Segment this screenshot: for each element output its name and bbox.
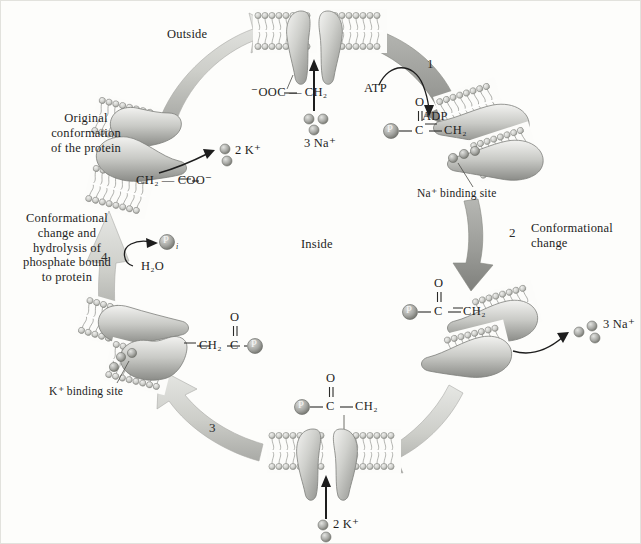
bonds-misc [192,93,297,181]
oxygen-glyph-right-upper: O [415,95,424,110]
ch2-glyph-right-lower: CH₂ [463,304,486,319]
inside-label: Inside [301,237,333,252]
step-number-2: 2 [509,225,516,241]
ch2-glyph-bottom: CH₂ [355,399,378,414]
residue-label-left-upper: CH₂ — COO⁻ [136,173,213,188]
original-conformation-label: Original conformation of the protein [31,111,141,155]
oxygen-glyph-left-lower: O [230,310,239,325]
k-efflux-label: 2 K⁺ [235,143,261,158]
carbon-glyph-left-lower: C [230,338,239,353]
cycle-arrow-step3 [157,369,263,461]
pump-state-right-lower [422,279,601,377]
step2-description-label: Conformational change [531,221,631,251]
phosphate-glyph-right-lower: P [406,304,412,316]
step-number-4: 4 [101,249,108,265]
oxygen-glyph-bottom: O [326,371,335,386]
residue-label-top: ⁻OOC — CH₂ [251,85,328,100]
k-binding-site-label: K⁺ binding site [49,385,123,399]
pump-state-top [253,9,387,135]
k-influx-label: 2 K⁺ [333,517,359,532]
step-number-3: 3 [209,420,216,436]
oxygen-glyph-right-lower: O [434,276,443,291]
ch2-glyph-left-lower: CH₂ [199,338,222,353]
na-binding-site-label: Na⁺ binding site [417,187,496,201]
step-number-1: 1 [427,56,434,72]
na-efflux-label: 3 Na⁺ [603,317,635,332]
figure-canvas: Outside Inside Original conformation of … [0,0,641,544]
free-phosphate-glyph: P [163,234,169,246]
outside-label: Outside [167,27,207,42]
atp-label: ATP [364,81,387,96]
step4-description-label: Conformational change and hydrolysis of … [5,211,129,285]
water-label: H₂O [141,259,164,274]
carbon-glyph-right-lower: C [434,304,443,319]
cycle-arrow-step2 [453,199,493,291]
carbon-glyph-right-upper: C [415,123,424,138]
free-phosphate-subscript: i [176,242,178,251]
phosphate-glyph-left-lower: P [251,338,257,350]
na-influx-label: 3 Na⁺ [304,136,336,151]
phosphate-glyph-right-upper: P [387,123,393,135]
ch2-glyph-right-upper: CH₂ [444,123,467,138]
phosphate-glyph-bottom: P [298,399,304,411]
adp-label: ADP [422,109,448,124]
carbon-glyph-bottom: C [326,399,335,414]
